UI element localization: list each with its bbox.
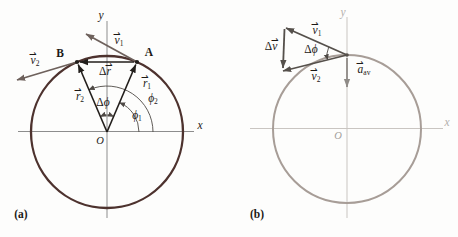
b-delta-v-vector bbox=[283, 29, 285, 68]
circular-motion-figure: y x O A B ⇀v1 ⇀v2 Δ⇀r ⇀r1 ⇀r2 Δϕ ϕ1 ϕ2 (… bbox=[0, 0, 458, 237]
panel-a bbox=[17, 21, 194, 218]
a-point-A-dot bbox=[135, 60, 139, 64]
panel-b-tag: (b) bbox=[250, 209, 264, 221]
a-phi2-label: ϕ2 bbox=[148, 93, 158, 106]
a-x-axis-label: x bbox=[197, 120, 202, 132]
vector-arrow-accent: ⇀ bbox=[113, 30, 121, 39]
b-x-axis-label: x bbox=[444, 117, 449, 129]
a-phi1-label: ϕ1 bbox=[132, 110, 142, 123]
figure-canvas bbox=[0, 0, 458, 237]
vector-arrow-accent: ⇀ bbox=[271, 36, 279, 45]
b-a-av-label: ⇀aav bbox=[358, 64, 371, 77]
vector-arrow-accent: ⇀ bbox=[29, 50, 37, 59]
vector-arrow-accent: ⇀ bbox=[141, 73, 149, 82]
a-point-B-label: B bbox=[56, 48, 64, 60]
b-origin-label: O bbox=[334, 131, 342, 142]
a-v1-label: ⇀v1 bbox=[115, 35, 124, 48]
b-v2-label: ⇀v2 bbox=[312, 71, 321, 84]
a-delta-phi-label: Δϕ bbox=[96, 97, 109, 110]
b-v1-label: ⇀v1 bbox=[313, 25, 322, 38]
b-apex-dot bbox=[345, 53, 349, 57]
vector-arrow-accent: ⇀ bbox=[311, 20, 319, 29]
a-point-A-label: A bbox=[145, 47, 153, 59]
b-delta-phi-label: Δϕ bbox=[304, 44, 317, 57]
b-delta-v-label: Δ⇀v bbox=[265, 41, 278, 54]
a-point-B-dot bbox=[75, 60, 79, 64]
a-v2-vector bbox=[17, 62, 77, 80]
a-y-axis-label: y bbox=[98, 10, 103, 22]
b-y-axis-label: y bbox=[340, 7, 345, 19]
a-v2-label: ⇀v2 bbox=[31, 55, 40, 68]
a-origin-label: O bbox=[96, 136, 104, 147]
a-r1-label: ⇀r1 bbox=[143, 78, 151, 91]
vector-arrow-accent: ⇀ bbox=[105, 61, 113, 70]
vector-arrow-accent: ⇀ bbox=[74, 86, 82, 95]
a-r2-label: ⇀r2 bbox=[76, 91, 84, 104]
panel-b bbox=[250, 17, 443, 218]
vector-arrow-accent: ⇀ bbox=[310, 66, 318, 75]
panel-a-tag: (a) bbox=[14, 209, 27, 221]
a-delta-r-label: Δ⇀r bbox=[99, 66, 111, 79]
vector-arrow-accent: ⇀ bbox=[356, 59, 364, 68]
